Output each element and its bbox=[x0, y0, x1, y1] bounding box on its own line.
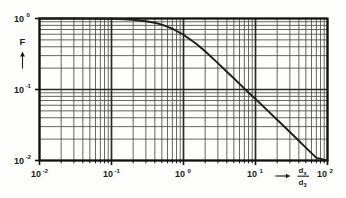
svg-text:10: 10 bbox=[103, 169, 113, 179]
svg-text:0: 0 bbox=[187, 167, 191, 174]
svg-text:10: 10 bbox=[14, 156, 24, 166]
svg-text:10: 10 bbox=[14, 14, 24, 24]
svg-text:10: 10 bbox=[175, 169, 185, 179]
chart-figure: 10-210-110010110210010-110-2Fdxd3 bbox=[0, 0, 346, 198]
svg-text:2: 2 bbox=[329, 167, 333, 174]
svg-text:10: 10 bbox=[14, 85, 24, 95]
svg-text:10: 10 bbox=[31, 169, 41, 179]
svg-text:3: 3 bbox=[304, 182, 307, 188]
svg-text:F: F bbox=[20, 36, 26, 47]
svg-text:-2: -2 bbox=[42, 167, 48, 174]
svg-text:0: 0 bbox=[26, 11, 30, 18]
svg-text:-1: -1 bbox=[25, 82, 31, 89]
svg-text:1: 1 bbox=[259, 167, 263, 174]
y-axis-label-F: F bbox=[20, 36, 26, 47]
svg-text:10: 10 bbox=[247, 169, 257, 179]
svg-text:-2: -2 bbox=[25, 153, 31, 160]
svg-text:-1: -1 bbox=[114, 167, 120, 174]
log-log-chart: 10-210-110010110210010-110-2Fdxd3 bbox=[0, 0, 346, 198]
svg-text:10: 10 bbox=[317, 169, 327, 179]
